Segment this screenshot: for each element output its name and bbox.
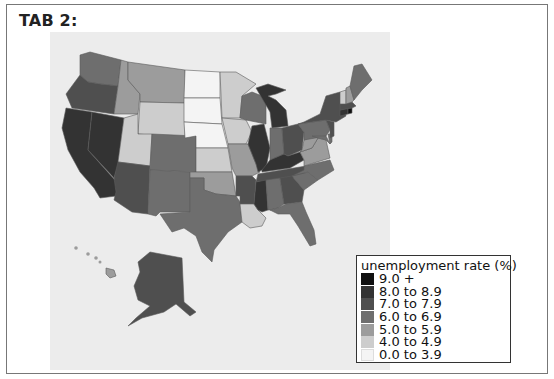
state-ri (348, 108, 352, 114)
state-az (114, 162, 150, 214)
state-nd (184, 70, 220, 98)
state-co (150, 134, 196, 172)
state-ks (196, 148, 232, 172)
state-ny (298, 92, 346, 124)
state-ms (254, 180, 268, 212)
state-hi-island (86, 252, 90, 256)
legend-item: 0.0 to 3.9 (361, 349, 506, 362)
state-hi (106, 268, 116, 278)
legend-swatch (361, 324, 374, 336)
state-hi-island (94, 256, 98, 260)
state-ia (222, 118, 252, 144)
state-fl (270, 202, 316, 246)
legend-swatch (361, 273, 374, 285)
state-hi-island (74, 246, 78, 250)
state-ar (236, 176, 256, 204)
state-me (350, 64, 372, 100)
legend-label: 0.0 to 3.9 (379, 349, 442, 361)
legend-swatch (361, 311, 374, 323)
legend-swatch (361, 336, 374, 348)
state-hi-island (99, 261, 102, 264)
state-vt (340, 90, 346, 104)
map-legend: unemployment rate (%) 9.0 + 8.0 to 8.9 7… (356, 255, 511, 363)
legend-swatch (361, 286, 374, 298)
state-wy (138, 102, 185, 138)
legend-swatch (361, 298, 374, 310)
legend-swatch (361, 349, 374, 361)
state-nm (148, 170, 190, 216)
state-ak (128, 252, 196, 326)
state-sd (184, 98, 222, 124)
